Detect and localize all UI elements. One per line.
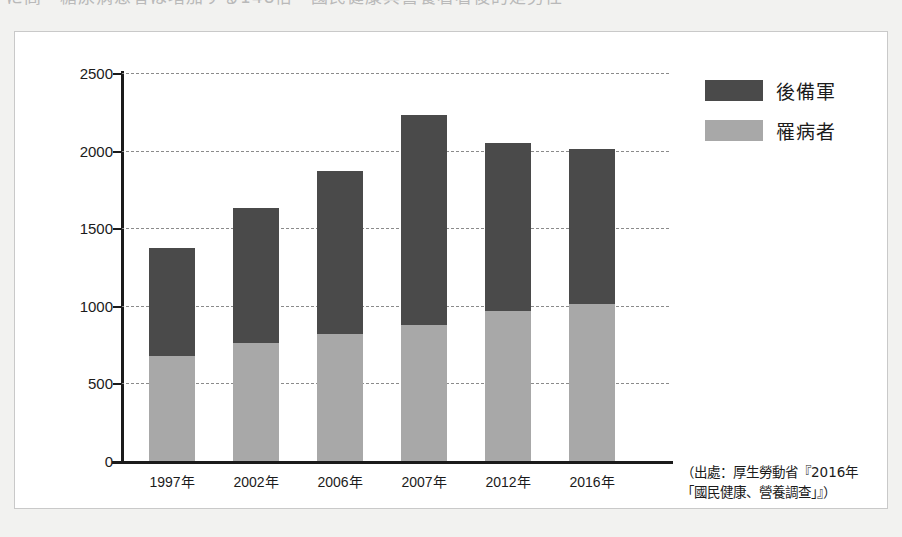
xtick-label-2007: 2007年: [379, 471, 469, 491]
bar-segment-reserve: [149, 248, 195, 355]
bar-group-2002[interactable]: [233, 208, 279, 461]
source-note: （出處：厚生勞動省『2016年 「國民健康、營養調查」』）: [681, 462, 902, 502]
ytick-mark-1500: [113, 228, 122, 230]
ytick-label-1000: 1000: [80, 297, 113, 314]
bar-segment-reserve: [317, 171, 363, 334]
scanned-page: に高 糖尿病患者は増加する148倍 國民健康與營養看看後的是男性 2500 20…: [0, 0, 902, 537]
cropped-caption-text: に高 糖尿病患者は増加する148倍 國民健康與營養看看後的是男性: [6, 0, 563, 7]
xtick-label-2012: 2012年: [463, 471, 553, 491]
xtick-label-2002: 2002年: [211, 471, 301, 491]
source-note-line2: 「國民健康、營養調查」』）: [681, 482, 902, 502]
ytick-label-2000: 2000: [80, 142, 113, 159]
bar-segment-reserve: [485, 143, 531, 311]
bar-group-2016[interactable]: [569, 149, 615, 461]
legend-swatch-reserve-icon: [705, 80, 763, 101]
xtick-label-2006: 2006年: [295, 471, 385, 491]
xtick-label-1997: 1997年: [127, 471, 217, 491]
chart-figure-panel: 2500 2000 1500 1000 500 0: [14, 31, 888, 509]
ytick-mark-500: [113, 383, 122, 385]
bar-segment-reserve: [233, 208, 279, 343]
ytick-mark-2000: [113, 151, 122, 153]
bar-segment-patients: [485, 311, 531, 461]
gridline-2500: [121, 73, 669, 74]
ytick-label-2500: 2500: [80, 65, 113, 82]
ytick-mark-0: [113, 461, 122, 463]
ytick-mark-1000: [113, 306, 122, 308]
legend-item-patients[interactable]: 罹病者: [705, 117, 836, 144]
ytick-label-500: 500: [88, 375, 113, 392]
chart-legend: 後備軍 罹病者: [705, 77, 836, 157]
cropped-caption-strip: に高 糖尿病患者は増加する148倍 國民健康與營養看看後的是男性: [0, 0, 902, 14]
legend-item-reserve[interactable]: 後備軍: [705, 77, 836, 104]
ytick-label-1500: 1500: [80, 220, 113, 237]
source-note-line1: （出處：厚生勞動省『2016年: [681, 462, 902, 482]
bar-segment-patients: [569, 304, 615, 461]
xtick-label-2016: 2016年: [547, 471, 637, 491]
bar-segment-patients: [149, 356, 195, 462]
bar-segment-patients: [317, 334, 363, 461]
legend-label-reserve: 後備軍: [776, 77, 836, 104]
bar-segment-reserve: [569, 149, 615, 304]
plot-area: 2500 2000 1500 1000 500 0: [121, 73, 669, 461]
legend-label-patients: 罹病者: [776, 117, 836, 144]
ytick-mark-2500: [113, 73, 122, 75]
bar-group-2012[interactable]: [485, 143, 531, 461]
x-axis-line: [112, 461, 673, 464]
bar-segment-patients: [401, 325, 447, 462]
bar-segment-patients: [233, 343, 279, 461]
bar-group-2006[interactable]: [317, 171, 363, 461]
bar-group-1997[interactable]: [149, 248, 195, 461]
y-axis-line: [121, 71, 124, 463]
bar-group-2007[interactable]: [401, 115, 447, 461]
legend-swatch-patients-icon: [705, 120, 763, 141]
ytick-label-0: 0: [105, 453, 113, 470]
bar-segment-reserve: [401, 115, 447, 325]
